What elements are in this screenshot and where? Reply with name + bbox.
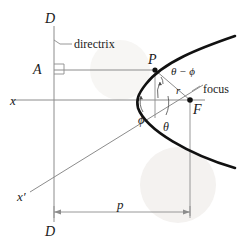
angle-arc-theta-minus-phi bbox=[161, 77, 163, 84]
angle-arc-theta bbox=[166, 96, 169, 115]
label-point-p: P bbox=[147, 52, 157, 67]
label-angle-theta-minus-phi: θ − ϕ bbox=[171, 65, 195, 77]
point-marker-p bbox=[152, 67, 157, 72]
label-angle-phi: ϕ bbox=[138, 113, 144, 127]
label-radius-r: r bbox=[176, 84, 181, 96]
label-distance-p: p bbox=[116, 197, 124, 212]
label-point-f: F bbox=[192, 102, 202, 117]
label-focus: focus bbox=[203, 82, 229, 96]
angle-arrow-head-phi bbox=[139, 96, 143, 99]
directrix-callout-leader bbox=[54, 40, 72, 44]
label-point-a: A bbox=[32, 62, 42, 77]
label-directrix-bottom-d: D bbox=[44, 224, 55, 239]
label-axis-x-prime: x′ bbox=[16, 189, 26, 204]
point-marker-f bbox=[187, 97, 193, 103]
figure-canvas: D directrix A P θ − ϕ r focus F x ϕ θ x′… bbox=[0, 0, 247, 246]
p-dimension-arrow-left bbox=[54, 209, 61, 214]
label-axis-x: x bbox=[9, 93, 16, 108]
label-directrix-top-d: D bbox=[44, 11, 55, 26]
angle-arrow-head-inner bbox=[158, 82, 162, 85]
label-directrix-callout: directrix bbox=[74, 37, 115, 51]
label-angle-theta: θ bbox=[163, 120, 169, 134]
parabola-focus-directrix-figure: D directrix A P θ − ϕ r focus F x ϕ θ x′… bbox=[0, 0, 247, 246]
right-angle-marker bbox=[54, 64, 64, 74]
focus-callout-leader bbox=[192, 86, 200, 91]
